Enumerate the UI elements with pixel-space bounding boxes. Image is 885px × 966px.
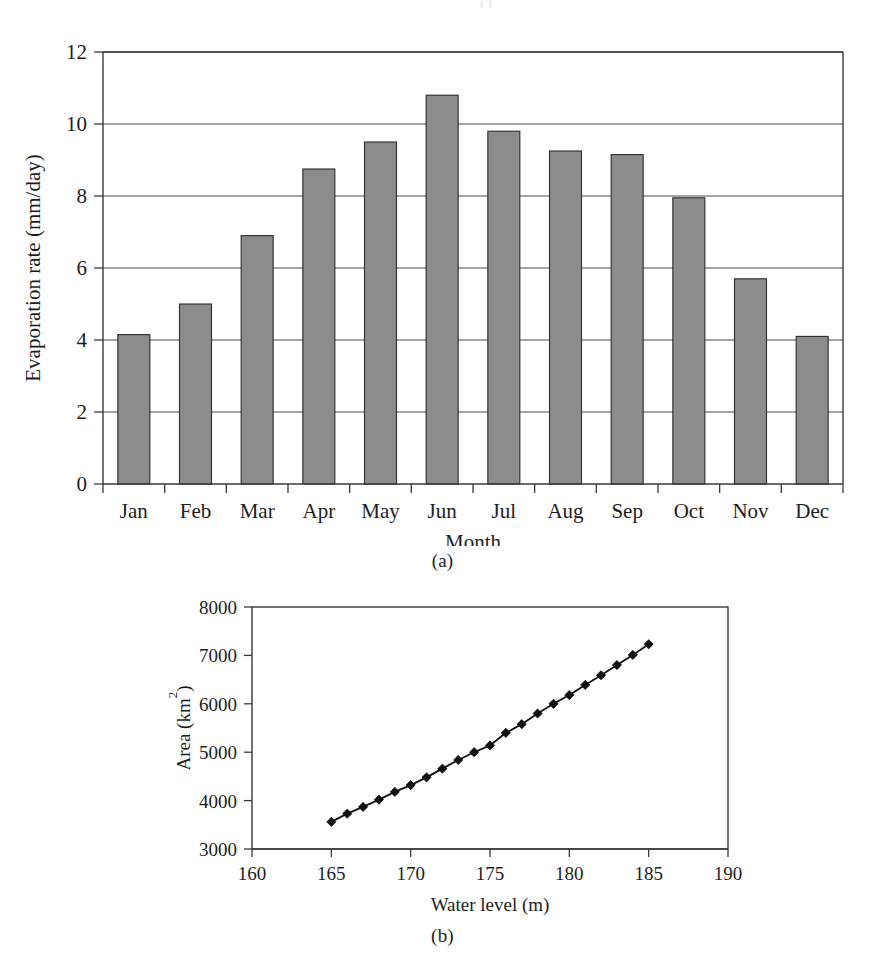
y-tick-label: 5000 — [199, 742, 237, 763]
bar-feb — [180, 304, 212, 484]
line-chart-markers — [327, 640, 654, 827]
x-tick-label: 165 — [317, 863, 346, 884]
data-point-marker — [565, 690, 574, 699]
bar-may — [365, 142, 397, 484]
data-point-marker — [374, 795, 383, 804]
data-point-marker — [596, 671, 605, 680]
bar-mar — [241, 236, 273, 484]
panel-a-caption: (a) — [0, 550, 885, 572]
data-point-marker — [390, 787, 399, 796]
line-chart-x-ticks: 160165170175180185190 — [238, 849, 743, 884]
x-tick-label: 190 — [714, 863, 743, 884]
line-chart-y-ticks: 300040005000600070008000 — [199, 597, 252, 860]
chart-b-area-water-level-line-chart: 300040005000600070008000 160165170175180… — [0, 585, 885, 920]
panel-b-caption: (b) — [0, 925, 885, 947]
y-tick-label: 7000 — [199, 645, 237, 666]
bar-chart-y-ticks: 024681012 — [66, 40, 103, 496]
bar-dec — [796, 336, 828, 484]
bar-oct — [673, 198, 705, 484]
data-point-marker — [454, 755, 463, 764]
x-tick-label-nov: Nov — [732, 499, 769, 523]
data-point-marker — [406, 781, 415, 790]
x-tick-label-oct: Oct — [674, 499, 704, 523]
bar-chart-bars — [118, 95, 828, 484]
bar-jun — [426, 95, 458, 484]
y-tick-label: 3000 — [199, 839, 237, 860]
y-axis-title: Evaporation rate (mm/day) — [21, 154, 45, 381]
x-tick-label: 170 — [396, 863, 425, 884]
figure-page: ( ) 024681012 JanFebMarAprMayJunJulAugSe… — [0, 0, 885, 966]
x-tick-label: 180 — [555, 863, 584, 884]
data-point-marker — [358, 802, 367, 811]
data-point-marker — [327, 817, 336, 826]
x-tick-label-apr: Apr — [302, 499, 335, 523]
x-tick-label-jun: Jun — [428, 499, 458, 523]
bar-nov — [735, 279, 767, 484]
data-point-marker — [612, 660, 621, 669]
x-tick-label: 175 — [476, 863, 505, 884]
x-tick-label-aug: Aug — [547, 499, 584, 523]
y-tick-label: 6 — [77, 256, 88, 280]
bar-chart-gridlines — [103, 52, 843, 412]
y-tick-label: 4000 — [199, 791, 237, 812]
data-point-marker — [581, 680, 590, 689]
y-tick-label: 0 — [77, 472, 88, 496]
data-point-marker — [343, 809, 352, 818]
data-point-marker — [549, 699, 558, 708]
y-tick-label: 10 — [66, 112, 87, 136]
x-tick-label: 160 — [238, 863, 267, 884]
x-tick-label: 185 — [634, 863, 663, 884]
y-tick-label: 12 — [66, 40, 87, 64]
bar-aug — [550, 151, 582, 484]
line-chart-svg: 300040005000600070008000 160165170175180… — [0, 585, 885, 920]
chart-a-evaporation-bar-chart: 024681012 JanFebMarAprMayJunJulAugSepOct… — [0, 26, 885, 546]
x-tick-label-jan: Jan — [120, 499, 148, 523]
y-axis-title: Area (km2) — [165, 685, 196, 770]
y-tick-label: 4 — [77, 328, 88, 352]
x-axis-title: Month — [445, 530, 502, 546]
x-tick-label-dec: Dec — [795, 499, 829, 523]
y-tick-label: 2 — [77, 400, 88, 424]
bar-chart-x-tick-labels: JanFebMarAprMayJunJulAugSepOctNovDec — [120, 499, 829, 523]
bar-chart-x-ticks — [103, 484, 843, 493]
y-tick-label: 6000 — [199, 694, 237, 715]
y-tick-label: 8000 — [199, 597, 237, 618]
y-tick-label: 8 — [77, 184, 88, 208]
x-tick-label-sep: Sep — [611, 499, 643, 523]
bar-sep — [611, 155, 643, 484]
bar-apr — [303, 169, 335, 484]
bar-jan — [118, 335, 150, 484]
x-tick-label-feb: Feb — [180, 499, 212, 523]
line-chart-frame — [252, 607, 728, 849]
svg-text:Area (km2): Area (km2) — [165, 685, 196, 770]
x-tick-label-may: May — [361, 499, 400, 523]
x-axis-title: Water level (m) — [431, 894, 550, 916]
x-tick-label-jul: Jul — [492, 499, 517, 523]
data-point-marker — [438, 764, 447, 773]
x-tick-label-mar: Mar — [240, 499, 275, 523]
data-point-marker — [422, 773, 431, 782]
plot-frame — [252, 607, 728, 849]
bar-jul — [488, 131, 520, 484]
scan-artifact-text: ( ) — [480, 0, 600, 8]
bar-chart-svg: 024681012 JanFebMarAprMayJunJulAugSepOct… — [0, 26, 885, 546]
data-point-marker — [470, 748, 479, 757]
